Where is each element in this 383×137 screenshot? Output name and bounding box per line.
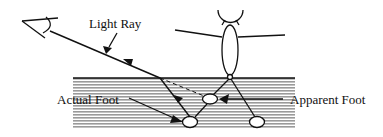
light-ray-pointer bbox=[109, 33, 117, 47]
refraction-diagram: Light Ray Actual Foot Apparent Foot bbox=[0, 0, 383, 137]
hip bbox=[228, 75, 233, 80]
apparent-foot-label: Apparent Foot bbox=[290, 92, 366, 107]
actual-foot bbox=[183, 117, 198, 128]
apparent-foot bbox=[203, 94, 218, 104]
left-arm bbox=[175, 30, 222, 37]
actual-foot-label: Actual Foot bbox=[57, 92, 119, 107]
head bbox=[218, 10, 243, 22]
right-arm bbox=[238, 35, 285, 37]
body bbox=[222, 25, 238, 75]
light-ray-air bbox=[50, 31, 160, 78]
light-ray-pointer-head bbox=[103, 46, 112, 54]
right-foot bbox=[250, 117, 265, 128]
eye-icon bbox=[22, 17, 58, 38]
light-ray-label: Light Ray bbox=[89, 16, 142, 31]
